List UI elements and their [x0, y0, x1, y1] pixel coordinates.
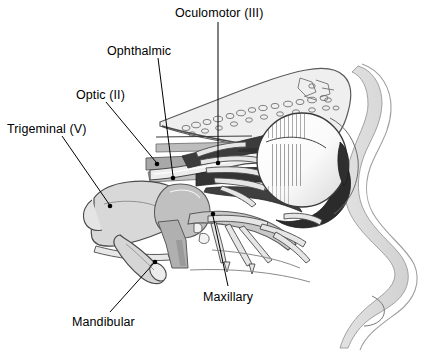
- leader-line-optic: [106, 102, 156, 162]
- dot-mandibular: [153, 260, 158, 265]
- dot-optic: [155, 162, 160, 167]
- dot-trigeminal: [108, 204, 113, 209]
- label-maxillary: Maxillary: [203, 290, 253, 304]
- eyeball-group: [257, 112, 358, 228]
- dot-oculomotor: [216, 161, 221, 166]
- dot-ophthalmic: [171, 176, 176, 181]
- facial-profile-group: [340, 64, 417, 350]
- leader-line-mandibular: [110, 263, 154, 312]
- branch-terminal-tip-2: [249, 264, 255, 274]
- anatomy-figure: Oculomotor (III) Ophthalmic Optic (II) T…: [0, 0, 429, 353]
- facial-soft-tissue: [340, 66, 408, 348]
- label-mandibular: Mandibular: [72, 315, 135, 329]
- label-ophthalmic: Ophthalmic: [107, 44, 171, 58]
- foramen-ovale: [199, 233, 209, 243]
- leader-line-trigeminal: [62, 136, 109, 204]
- foramen-rotundum: [194, 223, 202, 233]
- hard-palate-line: [190, 270, 310, 283]
- label-optic: Optic (II): [76, 88, 125, 102]
- label-trigeminal: Trigeminal (V): [7, 122, 86, 136]
- dot-maxillary: [211, 212, 216, 217]
- label-oculomotor: Oculomotor (III): [175, 6, 263, 20]
